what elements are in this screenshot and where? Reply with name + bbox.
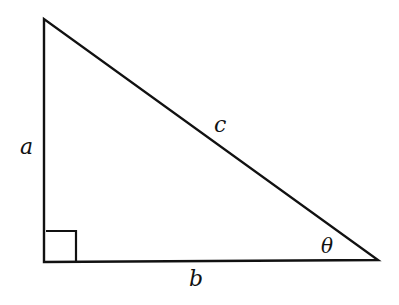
right-triangle-diagram — [0, 0, 399, 305]
label-angle-theta: θ — [321, 236, 333, 256]
right-angle-marker — [46, 231, 76, 261]
label-side-b: b — [189, 268, 203, 290]
label-side-a: a — [20, 136, 33, 158]
label-side-c: c — [214, 114, 226, 136]
triangle — [44, 19, 378, 262]
